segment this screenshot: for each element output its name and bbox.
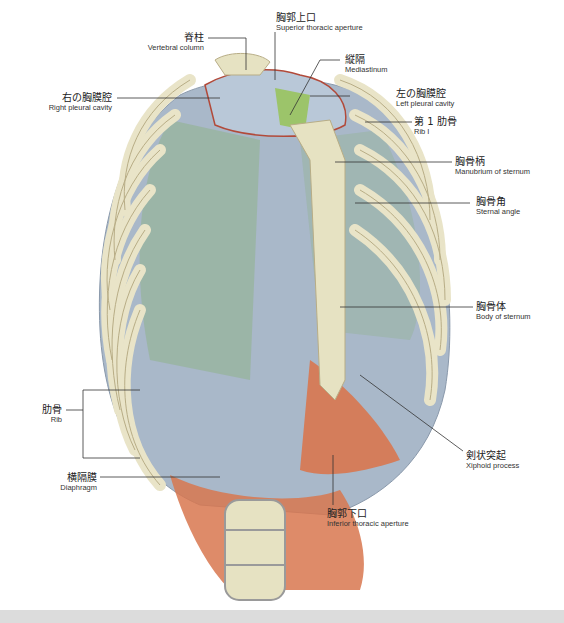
label-xiphoid-process: 剣状突起 Xiphoid process bbox=[466, 450, 519, 470]
label-vertebral-column: 脊柱 Vertebral column bbox=[148, 32, 204, 52]
label-body-of-sternum: 胸骨体 Body of sternum bbox=[476, 301, 531, 321]
label-right-pleural-cavity: 右の胸膜腔 Right pleural cavity bbox=[49, 92, 112, 112]
label-superior-thoracic-aperture: 胸郭上口 Superior thoracic aperture bbox=[276, 12, 363, 32]
bottom-border-strip bbox=[0, 610, 564, 623]
label-rib: 肋骨 Rib bbox=[42, 404, 62, 424]
label-mediastinum: 縦隔 Mediastinum bbox=[345, 54, 388, 74]
label-left-pleural-cavity: 左の胸膜腔 Left pleural cavity bbox=[396, 88, 454, 108]
thoracic-cage-figure: 胸郭上口 Superior thoracic aperture 脊柱 Verte… bbox=[0, 0, 564, 610]
label-sternal-angle: 胸骨角 Sternal angle bbox=[476, 196, 520, 216]
label-diaphragm: 横隔膜 Diaphragm bbox=[60, 472, 97, 492]
label-rib-1: 第 1 肋骨 Rib I bbox=[414, 116, 457, 136]
label-manubrium: 胸骨柄 Manubrium of sternum bbox=[455, 156, 530, 176]
label-inferior-thoracic-aperture: 胸郭下口 Inferior thoracic aperture bbox=[327, 508, 409, 528]
